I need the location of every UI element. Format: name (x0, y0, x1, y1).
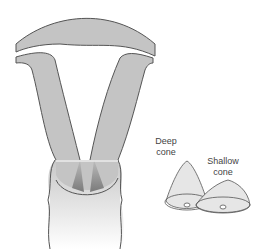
uterine-fundus (16, 18, 155, 56)
shallow-cone-shape (196, 180, 250, 213)
cervical-conization-diagram: Deep cone Shallow cone (0, 0, 264, 249)
shallow-cone-label: Shallow cone (200, 156, 246, 178)
deep-cone-label-line2: cone (150, 147, 182, 158)
deep-cone-label: Deep cone (150, 136, 182, 158)
shallow-cone-label-line1: Shallow (200, 156, 246, 167)
cervix (56, 160, 118, 195)
shallow-cone-label-line2: cone (200, 167, 246, 178)
deep-cone-label-line1: Deep (150, 136, 182, 147)
anatomy-illustration (0, 0, 264, 249)
